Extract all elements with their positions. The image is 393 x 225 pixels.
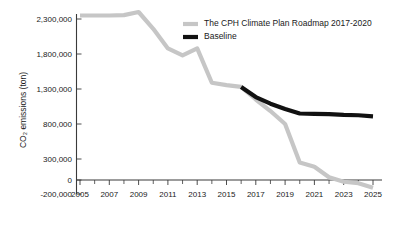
x-tick-label: 2005 (71, 190, 89, 199)
co2-emissions-chart: CO₂ emissions (ton) 2,300,0001,800,0001,… (0, 0, 393, 225)
x-tick-label: 2025 (364, 190, 382, 199)
x-tick-label: 2007 (100, 190, 118, 199)
y-tick-label: 800,000 (43, 120, 72, 129)
y-tick-label: 0 (68, 176, 73, 185)
y-tick-label: 1,300,000 (36, 85, 72, 94)
x-tick-label: 2015 (218, 190, 236, 199)
x-tick-label: 2019 (276, 190, 294, 199)
x-tick-label: 2023 (335, 190, 353, 199)
legend-label: Baseline (204, 31, 237, 41)
y-tick-label: 2,300,000 (36, 15, 72, 24)
x-tick-label: 2017 (247, 190, 265, 199)
y-tick-label: 1,800,000 (36, 50, 72, 59)
legend-label: The CPH Climate Plan Roadmap 2017-2020 (204, 18, 372, 28)
x-tick-label: 2009 (130, 190, 148, 199)
y-tick-label: -200,000 (40, 190, 72, 199)
x-tick-label: 2011 (159, 190, 177, 199)
y-tick-label: 300,000 (43, 155, 72, 164)
chart-canvas: CO₂ emissions (ton) 2,300,0001,800,0001,… (0, 0, 393, 225)
x-tick-label: 2013 (188, 190, 206, 199)
x-tick-label: 2021 (306, 190, 324, 199)
y-axis-title: CO₂ emissions (ton) (18, 72, 28, 148)
